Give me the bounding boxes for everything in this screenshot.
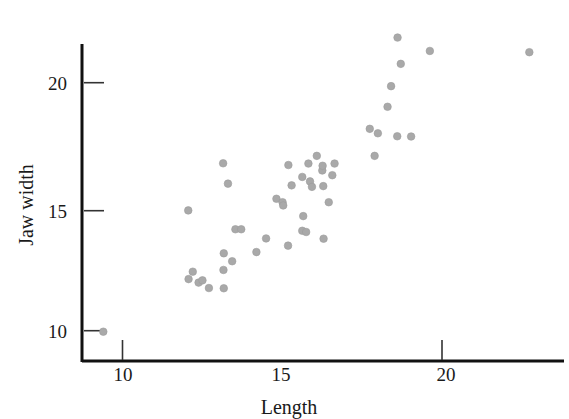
- y-axis-title: Jaw width: [15, 164, 38, 246]
- data-point: [224, 180, 232, 188]
- y-tick-label-20: 20: [48, 73, 67, 92]
- data-point: [284, 242, 292, 250]
- data-point: [185, 275, 193, 283]
- data-point: [387, 82, 395, 90]
- data-point: [288, 182, 296, 190]
- y-tick-label-10: 10: [48, 321, 67, 340]
- axes-group: [82, 44, 564, 362]
- x-tick-label-20: 20: [437, 365, 456, 384]
- data-point: [366, 125, 374, 133]
- x-axis-title: Length: [261, 396, 318, 419]
- data-point: [302, 228, 310, 236]
- data-point: [407, 133, 415, 141]
- data-point: [253, 248, 261, 256]
- data-point: [320, 235, 328, 243]
- data-point: [526, 48, 534, 56]
- data-point: [100, 328, 108, 336]
- data-point: [325, 198, 333, 206]
- data-points-layer: [100, 34, 534, 336]
- data-point: [184, 207, 192, 215]
- data-point: [319, 162, 327, 170]
- data-point: [384, 103, 392, 111]
- data-point: [313, 152, 321, 160]
- data-point: [393, 132, 401, 140]
- y-tick-marks: [84, 83, 104, 331]
- data-point: [397, 60, 405, 68]
- data-point: [237, 225, 245, 233]
- data-point: [285, 161, 293, 169]
- data-point: [394, 34, 402, 42]
- x-tick-marks: [123, 340, 443, 360]
- data-point: [426, 47, 434, 55]
- x-tick-label-15: 15: [272, 365, 291, 384]
- data-point: [308, 183, 316, 191]
- data-point: [220, 266, 228, 274]
- data-point: [374, 129, 382, 137]
- data-point: [305, 160, 313, 168]
- data-point: [220, 284, 228, 292]
- data-point: [205, 284, 213, 292]
- data-point: [219, 160, 227, 168]
- data-point: [189, 268, 197, 276]
- x-tick-label-10: 10: [114, 365, 133, 384]
- data-point: [298, 173, 306, 181]
- data-point: [329, 171, 337, 179]
- data-point: [262, 235, 270, 243]
- data-point: [371, 152, 379, 160]
- data-point: [331, 160, 339, 168]
- data-point: [228, 257, 236, 265]
- y-tick-label-15: 15: [48, 201, 67, 220]
- data-point: [319, 182, 327, 190]
- data-point: [199, 277, 207, 285]
- data-point: [299, 212, 307, 220]
- data-point: [220, 250, 228, 258]
- data-point: [279, 202, 287, 210]
